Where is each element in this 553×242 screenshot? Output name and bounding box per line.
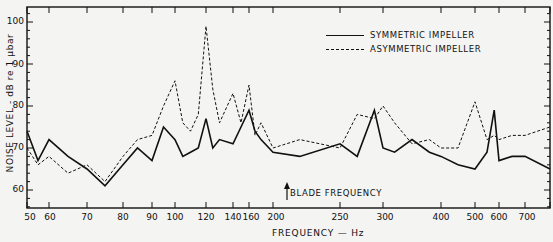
x-tick: 60	[44, 212, 55, 222]
x-tick: 400	[432, 212, 449, 222]
x-tick: 90	[146, 212, 157, 222]
y-tick-70: 70	[6, 142, 24, 152]
x-tick: 600	[490, 212, 507, 222]
x-tick: 200	[267, 212, 284, 222]
x-tick: 300	[376, 212, 393, 222]
x-tick: 120	[197, 212, 214, 222]
x-tick: 70	[81, 212, 92, 222]
legend-label: ASYMMETRIC IMPELLER	[370, 44, 481, 54]
legend-item-asymmetric: ASYMMETRIC IMPELLER	[326, 42, 481, 56]
x-axis-label: FREQUENCY — Hz	[272, 228, 364, 238]
y-tick-60: 60	[6, 184, 24, 194]
x-tick: 140	[224, 212, 241, 222]
legend-item-symmetric: SYMMETRIC IMPELLER	[326, 28, 481, 42]
y-tick-90: 90	[6, 59, 24, 69]
x-tick: 80	[117, 212, 128, 222]
blade-frequency-annotation: BLADE FREQUENCY	[290, 188, 382, 198]
solid-line-swatch-icon	[326, 35, 364, 36]
symmetric-impeller-line	[27, 110, 550, 186]
x-tick: 160	[242, 212, 259, 222]
legend-label: SYMMETRIC IMPELLER	[370, 30, 475, 40]
x-tick: 50	[24, 212, 35, 222]
x-tick: 700	[518, 212, 535, 222]
dashed-line-swatch-icon	[326, 49, 364, 50]
x-tick: 100	[166, 212, 183, 222]
legend: SYMMETRIC IMPELLER ASYMMETRIC IMPELLER	[326, 28, 481, 56]
x-tick: 250	[331, 212, 348, 222]
y-tick-100: 100	[6, 16, 24, 26]
x-tick: 500	[466, 212, 483, 222]
y-tick-80: 80	[6, 100, 24, 110]
